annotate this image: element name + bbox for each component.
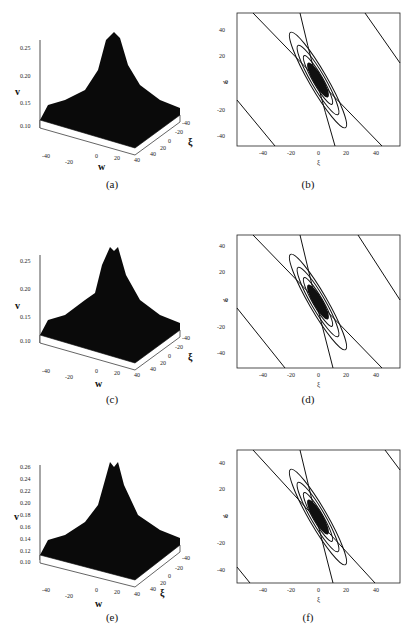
y-axis-label: w xyxy=(223,512,229,520)
x-tick: -20 xyxy=(287,372,295,378)
x-tick: 20 xyxy=(114,155,120,161)
z-tick: 0.25 xyxy=(20,45,31,51)
y-tick: 40 xyxy=(219,27,225,33)
z-tick: 0.20 xyxy=(20,73,31,79)
z-tick: 0.15 xyxy=(20,100,31,106)
z-tick: 0.18 xyxy=(20,512,31,518)
y-tick: 20 xyxy=(160,145,166,151)
y-tick: 20 xyxy=(219,53,225,59)
y-tick: -20 xyxy=(175,129,183,135)
x-axis-label: w xyxy=(95,598,103,609)
caption-a: (a) xyxy=(92,178,132,190)
x-tick: -40 xyxy=(42,368,50,374)
caption-e: (e) xyxy=(92,611,132,623)
x-tick: 0 xyxy=(95,587,98,593)
z-tick: 0.12 xyxy=(20,548,31,554)
y-tick: -20 xyxy=(175,344,183,350)
z-axis-label: v xyxy=(14,511,19,522)
y-tick: 40 xyxy=(219,243,225,249)
contour-plot-b: 40 20 0 -20 -40 w -40 -20 0 20 40 ξ xyxy=(215,8,405,168)
y-tick: -20 xyxy=(217,107,225,113)
z-tick: 0.20 xyxy=(20,500,31,506)
z-tick: 0.20 xyxy=(20,286,31,292)
z-tick: 0.24 xyxy=(20,476,31,482)
x-axis-label: ξ xyxy=(317,158,320,166)
z-tick: 0.26 xyxy=(20,464,31,470)
x-tick: -20 xyxy=(65,159,73,165)
x-tick: -20 xyxy=(65,593,73,599)
x-tick: 40 xyxy=(134,372,140,378)
x-axis-label: w xyxy=(95,378,103,389)
caption-f: (f) xyxy=(288,611,328,623)
contour-plot-d: 40 20 0 -20 -40 w -40 -20 0 20 40 ξ xyxy=(215,230,405,390)
x-tick: 0 xyxy=(95,153,98,159)
x-axis-label: ξ xyxy=(317,380,320,388)
x-tick: -20 xyxy=(65,374,73,380)
x-tick: 40 xyxy=(373,150,379,156)
y-axis-label: w xyxy=(223,78,229,86)
y-tick: -40 xyxy=(217,567,225,573)
contour-plot-f: 40 20 0 -20 -40 w -40 -20 0 20 40 ξ xyxy=(215,445,405,605)
y-axis-label: w xyxy=(223,296,229,304)
y-tick: 40 xyxy=(150,366,156,372)
x-tick: 40 xyxy=(134,157,140,163)
caption-b: (b) xyxy=(288,178,328,190)
z-tick: 0.10 xyxy=(20,559,31,565)
z-tick: 0.10 xyxy=(20,123,31,129)
y-tick: 20 xyxy=(160,580,166,586)
y-tick: 20 xyxy=(219,486,225,492)
caption-d: (d) xyxy=(288,393,328,405)
y-tick: 40 xyxy=(150,586,156,592)
z-axis-label: v xyxy=(15,86,20,97)
x-tick: 0 xyxy=(317,587,320,593)
x-tick: 0 xyxy=(317,372,320,378)
z-tick: 0.15 xyxy=(20,314,31,320)
z-tick: 0.16 xyxy=(20,524,31,530)
x-tick: -40 xyxy=(42,587,50,593)
surface-plot-e: 0.26 0.24 0.22 0.20 0.18 0.16 0.14 0.12 … xyxy=(10,460,200,610)
z-tick: 0.22 xyxy=(20,488,31,494)
y-axis-label: ξ xyxy=(188,136,193,148)
x-tick: -20 xyxy=(287,150,295,156)
x-axis-label: w xyxy=(98,161,106,170)
y-tick: 20 xyxy=(219,269,225,275)
z-tick: 0.14 xyxy=(20,536,31,542)
y-tick: 40 xyxy=(150,151,156,157)
z-tick: 0.25 xyxy=(20,258,31,264)
x-tick: 40 xyxy=(134,591,140,597)
surface-plot-a: 0.25 0.20 0.15 0.10 v -40 -20 0 20 40 w … xyxy=(10,10,200,170)
y-tick: 20 xyxy=(160,360,166,366)
x-tick: 20 xyxy=(343,587,349,593)
y-tick: 0 xyxy=(168,353,171,359)
y-tick: -40 xyxy=(182,120,190,126)
x-tick: 20 xyxy=(114,370,120,376)
y-tick: -20 xyxy=(217,324,225,330)
x-axis-label: ξ xyxy=(317,595,320,603)
x-tick: -40 xyxy=(259,372,267,378)
y-axis-label: ξ xyxy=(188,351,193,363)
x-tick: -40 xyxy=(259,150,267,156)
surface-plot-c: 0.25 0.20 0.15 0.10 v -40 -20 0 20 40 w … xyxy=(10,245,200,405)
y-tick: 0 xyxy=(168,138,171,144)
z-tick: 0.10 xyxy=(20,338,31,344)
x-tick: -20 xyxy=(287,587,295,593)
y-tick: -20 xyxy=(175,565,183,571)
x-tick: 20 xyxy=(343,372,349,378)
x-tick: 20 xyxy=(114,589,120,595)
x-tick: 40 xyxy=(373,587,379,593)
y-tick: -40 xyxy=(182,555,190,561)
x-tick: 20 xyxy=(343,150,349,156)
x-tick: 0 xyxy=(95,368,98,374)
y-tick: -40 xyxy=(182,335,190,341)
y-tick: 40 xyxy=(219,460,225,466)
caption-c: (c) xyxy=(92,393,132,405)
y-tick: 0 xyxy=(168,573,171,579)
x-tick: 0 xyxy=(317,150,320,156)
y-tick: -20 xyxy=(217,540,225,546)
x-tick: 40 xyxy=(373,372,379,378)
z-axis-label: v xyxy=(15,300,20,311)
y-tick: -40 xyxy=(217,350,225,356)
y-tick: -40 xyxy=(217,133,225,139)
y-axis-label: ξ xyxy=(160,587,165,599)
x-tick: -40 xyxy=(42,153,50,159)
